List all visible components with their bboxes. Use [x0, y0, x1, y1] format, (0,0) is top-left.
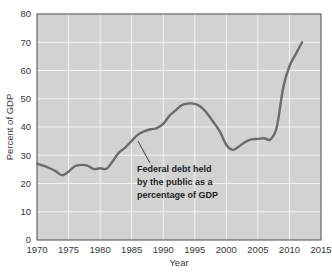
- y-axis-tick-label: 60: [20, 65, 31, 76]
- chart-figure: 01020304050607080 1970197519801985199019…: [0, 0, 332, 274]
- x-axis-tick-label: 1985: [121, 244, 142, 255]
- y-axis-tick-label: 40: [20, 121, 31, 132]
- y-axis-tick-label: 50: [20, 93, 31, 104]
- y-axis-tick-label: 80: [20, 8, 31, 19]
- x-axis-tick-label: 2015: [310, 244, 331, 255]
- x-axis-tick-label: 1975: [58, 244, 79, 255]
- x-axis-title: Year: [169, 257, 188, 268]
- x-axis-tick-label: 2005: [247, 244, 268, 255]
- y-axis-title: Percent of GDP: [4, 94, 15, 161]
- annotation-line-1: Federal debt held: [137, 164, 212, 174]
- x-axis-tick-label: 1970: [26, 244, 47, 255]
- x-axis-tick-label: 1990: [153, 244, 174, 255]
- y-axis-tick-label: 70: [20, 37, 31, 48]
- y-axis-tick-labels: 01020304050607080: [20, 8, 31, 245]
- y-axis-tick-label: 10: [20, 206, 31, 217]
- y-axis-tick-label: 20: [20, 178, 31, 189]
- x-axis-tick-label: 2000: [216, 244, 237, 255]
- annotation-line-3: percentage of GDP: [137, 190, 218, 200]
- x-axis-tick-label: 1980: [90, 244, 111, 255]
- x-axis-tick-label: 1995: [184, 244, 205, 255]
- debt-to-gdp-line-chart: 01020304050607080 1970197519801985199019…: [0, 0, 332, 274]
- y-axis-tick-label: 30: [20, 150, 31, 161]
- annotation-line-2: by the public as a: [137, 177, 214, 187]
- annotation-label: Federal debt held by the public as a per…: [137, 164, 218, 200]
- x-axis-tick-label: 2010: [279, 244, 300, 255]
